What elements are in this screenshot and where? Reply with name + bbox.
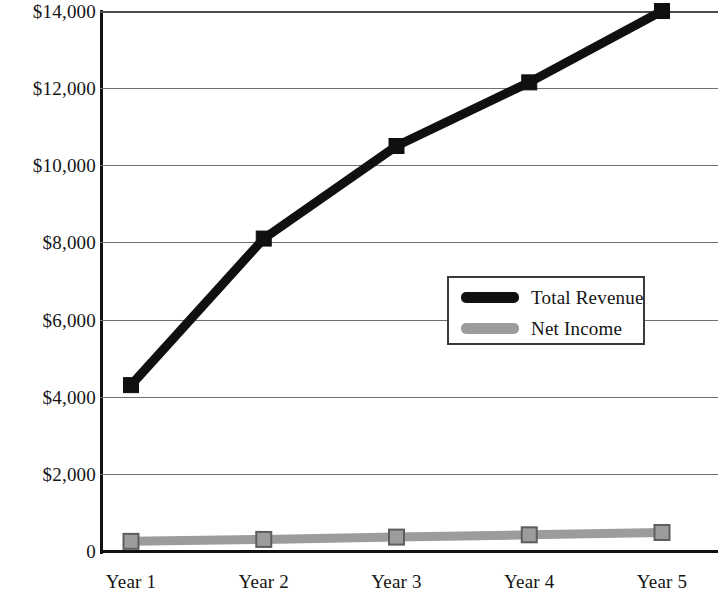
y-axis-tick-label: $8,000 bbox=[4, 233, 96, 252]
data-point-marker bbox=[256, 231, 271, 246]
legend-swatch-icon bbox=[461, 292, 519, 303]
x-axis-tick-label: Year 1 bbox=[106, 572, 156, 591]
x-axis-tick-label: Year 5 bbox=[637, 572, 687, 591]
y-axis-tick-label: $4,000 bbox=[4, 387, 96, 406]
legend-item-label: Total Revenue bbox=[531, 288, 644, 307]
x-axis-tick-label: Year 3 bbox=[371, 572, 421, 591]
data-point-marker bbox=[522, 75, 537, 90]
legend-swatch-icon bbox=[461, 323, 519, 334]
data-point-marker bbox=[256, 532, 271, 547]
y-axis-tick-label: $14,000 bbox=[4, 2, 96, 21]
y-axis-tick-label: 0 bbox=[4, 542, 96, 561]
y-axis-tick-label: $2,000 bbox=[4, 464, 96, 483]
data-point-marker bbox=[522, 527, 537, 542]
data-point-marker bbox=[389, 139, 404, 154]
y-axis-tick-label: $6,000 bbox=[4, 310, 96, 329]
data-point-marker bbox=[655, 525, 670, 540]
y-axis-tick-label: $12,000 bbox=[4, 79, 96, 98]
data-point-marker bbox=[124, 378, 139, 393]
legend-item: Total Revenue bbox=[449, 282, 643, 313]
x-axis-tick-label: Year 4 bbox=[504, 572, 554, 591]
y-axis: $14,000$12,000$10,000$8,000$6,000$4,000$… bbox=[0, 0, 96, 604]
data-point-marker bbox=[655, 4, 670, 19]
data-point-marker bbox=[389, 530, 404, 545]
y-axis-tick-label: $10,000 bbox=[4, 156, 96, 175]
legend-item: Net Income bbox=[449, 313, 643, 344]
x-axis: Year 1Year 2Year 3Year 4Year 5 bbox=[100, 572, 725, 602]
legend-item-label: Net Income bbox=[531, 319, 622, 338]
legend: Total RevenueNet Income bbox=[447, 276, 645, 345]
x-axis-tick-label: Year 2 bbox=[239, 572, 289, 591]
data-point-marker bbox=[124, 534, 139, 549]
line-chart: $14,000$12,000$10,000$8,000$6,000$4,000$… bbox=[0, 0, 725, 604]
